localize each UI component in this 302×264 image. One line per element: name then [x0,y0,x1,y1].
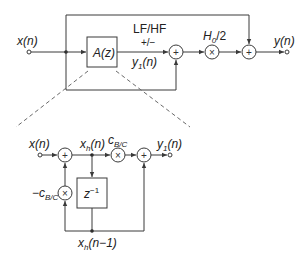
zoom-guide-left [16,71,88,127]
output-label: y1(n) [156,137,182,153]
delayed-state-label: xh(n−1) [77,236,117,252]
mult-symbol: × [209,47,215,58]
block-label: A(z) [92,46,115,60]
direct-path [66,52,176,90]
input-label: x(n) [28,137,50,151]
allpass-output-label: y1(n) [131,55,157,71]
sum-symbol: + [246,47,252,58]
output-terminal-icon [168,153,172,157]
sign-label: +/− [141,37,156,48]
gain-label: H0/2 [203,29,226,45]
top-diagram: + × + x(n) A(z) LF/HF +/− y1(n) H0/2 y(n… [16,15,295,127]
coef-label: cB/C [108,133,128,149]
input-label: x(n) [16,34,38,48]
neg-coef-label: −cB/C [32,186,59,202]
output-terminal-icon [285,50,289,54]
sum-symbol: + [173,47,179,58]
input-terminal-icon [38,153,42,157]
mode-label: LF/HF [133,22,166,36]
input-terminal-icon [27,50,31,54]
output-label: y(n) [273,34,295,48]
state-label: xh(n) [79,137,105,153]
mult-symbol: × [115,150,121,161]
sum-symbol: + [62,150,68,161]
zoom-guide-right [116,71,190,127]
bottom-diagram: + × + × x(n) xh(n) cB/C y1(n) −cB/C z−1 [28,133,182,252]
mult-symbol: × [62,188,68,199]
block-diagram: + × + x(n) A(z) LF/HF +/− y1(n) H0/2 y(n… [0,0,302,264]
sum-symbol: + [141,150,147,161]
